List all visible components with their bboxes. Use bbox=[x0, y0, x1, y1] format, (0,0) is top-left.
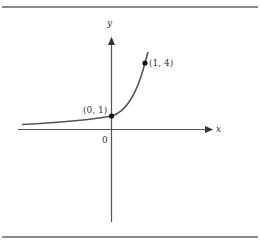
point-label-0-1: (0, 1) bbox=[83, 105, 107, 115]
exponential-graph: (0, 1) (1, 4) 0 x y bbox=[0, 0, 260, 240]
y-axis-label: y bbox=[106, 18, 113, 28]
point-1-4 bbox=[142, 60, 147, 65]
point-0-1 bbox=[109, 113, 114, 118]
point-label-1-4: (1, 4) bbox=[149, 58, 173, 68]
x-axis-label: x bbox=[216, 124, 221, 134]
origin-label: 0 bbox=[102, 135, 108, 145]
